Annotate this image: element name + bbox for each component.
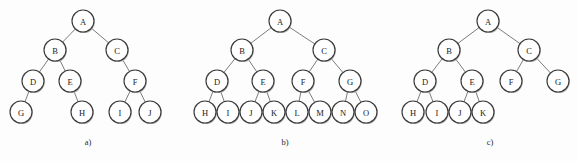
node-label: E [67, 77, 72, 87]
tree-edge-E-H [74, 91, 78, 101]
node-label: O [363, 108, 369, 118]
tree-edge-B-E [456, 59, 466, 72]
tree-node: E [252, 70, 275, 93]
node-label: H [202, 108, 208, 118]
tree-node: C [106, 39, 129, 62]
node-label: A [277, 17, 284, 27]
tree-node: D [206, 70, 229, 93]
tree-node: A [269, 10, 292, 33]
tree-node: O [355, 101, 378, 124]
tree-node: G [10, 101, 33, 124]
tree-node: F [124, 70, 147, 93]
tree-edge-D-I [429, 91, 433, 101]
tree-node: I [217, 101, 240, 124]
tree-b-nodes: ABCDEFGHIJKLMNO [194, 10, 378, 124]
tree-node: D [414, 70, 437, 93]
tree-edge-E-J [255, 91, 259, 101]
tree-node: E [461, 70, 484, 93]
tree-node: B [438, 39, 461, 62]
node-label: I [227, 108, 230, 118]
tree-node: N [332, 101, 355, 124]
tree-a: ABCDEFGHIJa) [10, 10, 162, 147]
node-label: F [301, 77, 306, 87]
tree-node: B [44, 39, 67, 62]
tree-edge-C-F [517, 60, 524, 72]
node-label: H [79, 108, 85, 118]
node-label: C [114, 46, 120, 56]
tree-node: B [231, 39, 254, 62]
tree-edge-E-K [267, 91, 271, 101]
tree-node: H [194, 101, 217, 124]
tree-node: I [426, 101, 449, 124]
tree-edge-B-E [60, 60, 65, 71]
node-label: B [52, 46, 58, 56]
tree-node: L [286, 101, 309, 124]
tree-edge-D-I [221, 91, 225, 101]
tree-edge-G-O [355, 91, 361, 102]
tree-edge-C-G [537, 58, 551, 73]
tree-edge-E-K [476, 91, 480, 101]
tree-node: M [309, 101, 332, 124]
tree-a-edges [25, 28, 145, 102]
node-label: M [316, 108, 324, 118]
tree-node: F [292, 70, 315, 93]
tree-node: D [22, 70, 45, 93]
tree-edge-A-C [497, 27, 520, 43]
node-label: G [347, 77, 353, 87]
tree-edge-D-H [417, 91, 421, 101]
figure-caption-tree-c: c) [487, 137, 494, 147]
tree-edge-A-C [289, 27, 315, 44]
tree-node: G [339, 70, 362, 93]
tree-edge-B-D [39, 59, 48, 72]
tree-node: E [59, 70, 82, 93]
node-label: G [18, 108, 24, 118]
node-label: N [340, 108, 346, 118]
node-label: F [509, 77, 514, 87]
node-label: A [80, 17, 87, 27]
tree-node: H [402, 101, 425, 124]
figure-caption-tree-b: b) [281, 137, 288, 147]
tree-node: A [72, 10, 95, 33]
node-label: E [469, 77, 474, 87]
node-label: D [30, 77, 36, 87]
tree-edge-B-D [432, 59, 443, 73]
node-label: C [526, 46, 532, 56]
tree-b: ABCDEFGHIJKLMNOb) [194, 10, 378, 147]
tree-edge-A-B [458, 28, 479, 44]
tree-edge-B-E [248, 59, 257, 72]
tree-node: I [109, 101, 132, 124]
tree-edge-F-I [125, 91, 130, 102]
tree-edge-A-C [91, 28, 108, 43]
tree-c-edges [417, 27, 551, 101]
tree-edge-C-F [123, 60, 130, 72]
tree-edge-D-H [209, 91, 213, 101]
tree-edge-C-G [331, 58, 343, 72]
node-label: D [422, 77, 428, 87]
node-label: K [480, 108, 487, 118]
tree-edge-C-F [309, 59, 318, 72]
tree-node: J [139, 101, 162, 124]
tree-edge-B-D [224, 59, 235, 73]
tree-node: K [263, 101, 286, 124]
tree-edge-F-L [299, 92, 301, 101]
figure-canvas: ABCDEFGHIJa)ABCDEFGHIJKLMNOb)ABCDEFGHIJK… [0, 0, 577, 161]
tree-node: G [547, 70, 570, 93]
node-label: B [239, 46, 245, 56]
node-label: I [119, 108, 122, 118]
node-label: E [260, 77, 265, 87]
tree-b-edges [209, 27, 361, 102]
node-label: G [555, 77, 561, 87]
tree-edge-F-J [140, 91, 145, 102]
binary-tree-figure: ABCDEFGHIJa)ABCDEFGHIJKLMNOb)ABCDEFGHIJK… [0, 0, 577, 161]
node-label: K [271, 108, 278, 118]
tree-a-nodes: ABCDEFGHIJ [10, 10, 162, 124]
tree-node: C [518, 39, 541, 62]
tree-c: ABCDEFGHIJKc) [402, 10, 570, 147]
tree-node: J [449, 101, 472, 124]
node-label: H [410, 108, 416, 118]
node-label: F [133, 77, 138, 87]
tree-node: F [500, 70, 523, 93]
tree-edge-F-M [308, 91, 314, 103]
tree-node: C [313, 39, 336, 62]
node-label: B [446, 46, 452, 56]
